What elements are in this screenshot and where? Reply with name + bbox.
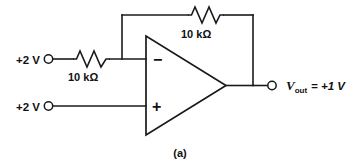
feedback-branch: [122, 7, 253, 85]
terminal-inverting-source[interactable]: [44, 55, 52, 63]
terminal-output[interactable]: [268, 81, 276, 89]
output-subscript: out: [295, 86, 308, 95]
figure-caption: (a): [173, 147, 187, 159]
label-feedback-resistor: 10 kΩ: [181, 28, 211, 40]
label-output-voltage: Vout= +1 V: [286, 78, 346, 95]
feedback-resistor-symbol: [188, 7, 224, 23]
inverting-input-branch: [53, 51, 146, 67]
opamp-inverting-terminal-sign: −: [153, 51, 162, 68]
input-resistor-symbol: [73, 51, 110, 67]
label-input-resistor: 10 kΩ: [68, 71, 98, 83]
opamp-noninverting-terminal-sign: +: [152, 98, 161, 115]
output-equation: = +1 V: [311, 80, 346, 92]
label-inverting-source-voltage: +2 V: [16, 54, 40, 66]
terminal-noninverting-source[interactable]: [44, 102, 52, 110]
svg-text:Vout= +1 V: Vout= +1 V: [286, 78, 346, 95]
opamp-circuit-figure: +2 V +2 V 10 kΩ 10 kΩ − + Vout= +1 V (a): [0, 0, 359, 168]
label-noninverting-source-voltage: +2 V: [16, 101, 40, 113]
